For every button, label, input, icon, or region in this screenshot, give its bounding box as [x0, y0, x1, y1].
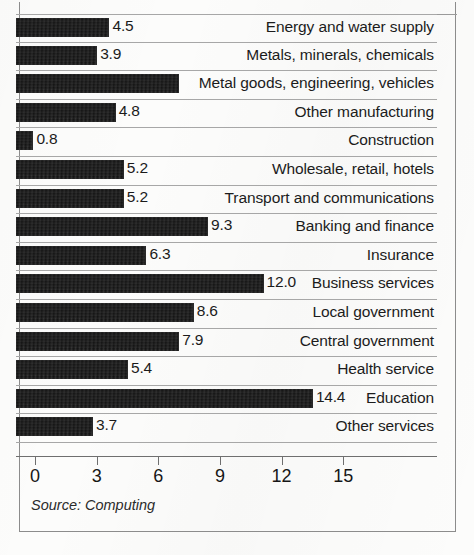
bar-chart-row: 3.7Other services — [16, 414, 437, 443]
x-axis-tick-label: 9 — [215, 466, 225, 487]
x-axis-line — [16, 456, 437, 457]
bar — [16, 246, 146, 265]
bar-chart-row: 0.8Construction — [16, 128, 437, 157]
bar-chart-row: 6.3Insurance — [16, 243, 437, 272]
category-label: Metals, minerals, chemicals — [246, 46, 434, 64]
category-label: Local government — [312, 303, 434, 321]
x-axis-tick — [220, 456, 221, 465]
bar — [16, 103, 116, 122]
category-label: Energy and water supply — [266, 18, 434, 36]
bar — [16, 274, 264, 293]
bar-value-label: 5.2 — [127, 159, 148, 177]
bar — [16, 74, 179, 93]
bar-value-label: 0.8 — [36, 130, 57, 148]
category-label: Other services — [335, 417, 434, 435]
bar-value-label: 9.3 — [211, 216, 232, 234]
x-axis-tick-label: 6 — [153, 466, 163, 487]
x-axis-tick-label: 12 — [272, 466, 292, 487]
category-label: Construction — [348, 131, 434, 149]
bar-value-label: 3.9 — [100, 45, 121, 63]
bar — [16, 389, 313, 408]
bar-value-label: 12.0 — [267, 273, 296, 291]
bar-chart-row: 7.9Central government — [16, 329, 437, 358]
bar-value-label: 3.7 — [96, 416, 117, 434]
bar-chart-row: 8.6Local government — [16, 300, 437, 329]
bar-value-label: 4.8 — [119, 102, 140, 120]
x-axis-tick-label: 3 — [92, 466, 102, 487]
bar-chart-row: 3.9Metals, minerals, chemicals — [16, 43, 437, 72]
bar-chart-row: 14.4Education — [16, 386, 437, 415]
bar-value-label: 5.2 — [127, 188, 148, 206]
category-label: Wholesale, retail, hotels — [272, 160, 434, 178]
x-axis-tick — [35, 456, 36, 465]
bar — [16, 46, 97, 65]
bar — [16, 417, 93, 436]
bar-value-label: 5.4 — [131, 359, 152, 377]
category-label: Insurance — [367, 246, 434, 264]
bar-value-label: 4.5 — [112, 17, 133, 35]
category-label: Business services — [312, 274, 434, 292]
bar — [16, 131, 33, 150]
bar-chart-row: 5.2Transport and communications — [16, 186, 437, 215]
bar-chart-row: 9.3Banking and finance — [16, 214, 437, 243]
x-axis-tick — [97, 456, 98, 465]
bar-value-label: 8.6 — [197, 302, 218, 320]
bar-chart-row: Metal goods, engineering, vehicles — [16, 71, 437, 100]
category-label: Education — [366, 389, 434, 407]
scanned-page-background: 4.5Energy and water supply3.9Metals, min… — [0, 0, 474, 555]
category-label: Central government — [300, 332, 434, 350]
bar-chart-row: 5.4Health service — [16, 357, 437, 386]
x-axis-tick — [158, 456, 159, 465]
category-label: Metal goods, engineering, vehicles — [199, 74, 434, 92]
x-axis-tick — [343, 456, 344, 465]
bar — [16, 332, 179, 351]
bar — [16, 303, 194, 322]
bar-chart-row: 4.8Other manufacturing — [16, 100, 437, 129]
bar-value-label: 7.9 — [182, 331, 203, 349]
bar — [16, 160, 124, 179]
bar-value-label: 6.3 — [149, 245, 170, 263]
x-axis-tick-label: 15 — [333, 466, 353, 487]
bar — [16, 18, 109, 37]
category-label: Other manufacturing — [295, 103, 434, 121]
bar-value-label: 14.4 — [316, 388, 345, 406]
source-note: Source: Computing — [31, 497, 155, 513]
bar — [16, 360, 128, 379]
x-axis-tick-label: 0 — [30, 466, 40, 487]
category-label: Health service — [337, 360, 434, 378]
bar-chart-row: 4.5Energy and water supply — [16, 14, 437, 43]
x-axis-tick — [282, 456, 283, 465]
bar — [16, 189, 124, 208]
bar — [16, 217, 208, 236]
bar-chart-plot-area: 4.5Energy and water supply3.9Metals, min… — [16, 14, 437, 456]
category-label: Transport and communications — [225, 189, 434, 207]
bar-chart-row: 5.2Wholesale, retail, hotels — [16, 157, 437, 186]
bar-chart-row: 12.0Business services — [16, 271, 437, 300]
category-label: Banking and finance — [295, 217, 434, 235]
